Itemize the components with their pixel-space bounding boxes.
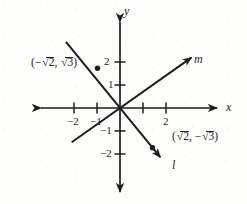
radicand-x: 2 xyxy=(183,130,189,142)
vinculum-x xyxy=(46,57,55,58)
figure-canvas: x y −2 −1 2 2 1 −1 −2 m l (−√2, √3) (√2,… xyxy=(0,0,247,204)
radicand-x: 2 xyxy=(49,56,55,68)
y-tick-label-2: 2 xyxy=(104,56,110,67)
line-m-label: m xyxy=(194,53,203,65)
x-tick-label--2: −2 xyxy=(67,116,79,127)
line-l xyxy=(66,42,160,157)
coordinate-plane-svg xyxy=(0,0,247,204)
y-axis-label: y xyxy=(124,5,129,17)
paren-close: ) xyxy=(214,130,218,142)
vinculum-y xyxy=(65,57,74,58)
x-axis-label: x xyxy=(226,101,231,113)
point-label-lower-right: (√2, −√3) xyxy=(172,131,218,143)
vinculum-x xyxy=(180,131,189,132)
radical-y: √3 xyxy=(60,56,73,68)
x-axis xyxy=(41,103,217,114)
y-tick-label--2: −2 xyxy=(100,148,112,159)
point-marker-neg-sqrt2-sqrt3 xyxy=(95,66,100,71)
vinculum-y xyxy=(206,131,215,132)
point-label-upper-left: (−√2, √3) xyxy=(31,57,77,69)
y-tick-label-1: 1 xyxy=(108,79,114,90)
radicand-y: 3 xyxy=(208,130,214,142)
radicand-y: 3 xyxy=(67,56,73,68)
x-tick-label-2: 2 xyxy=(163,116,169,127)
radical-x: √2 xyxy=(41,56,54,68)
paren-close: ) xyxy=(73,56,77,68)
point-marker-sqrt2-neg-sqrt3 xyxy=(150,145,155,150)
y-tick-label--1: −1 xyxy=(100,125,112,136)
radical-y: √3 xyxy=(201,130,214,142)
radical-x: √2 xyxy=(176,130,189,142)
comma-minus: , − xyxy=(189,130,201,142)
line-l-label: l xyxy=(172,159,175,171)
